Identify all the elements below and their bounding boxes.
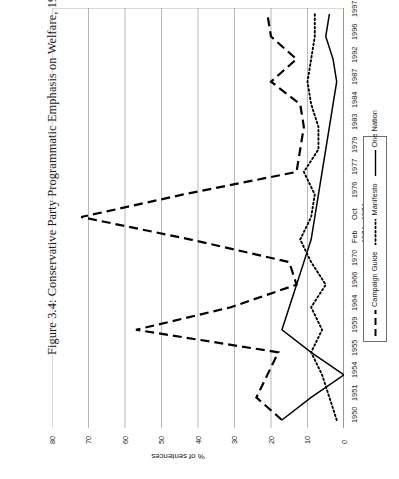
series-lines [81, 14, 344, 420]
category-tick-label: 1983 [351, 114, 358, 130]
value-tick-label: 30 [231, 436, 238, 444]
gridlines [52, 8, 344, 428]
legend-label: Campaign Guide [371, 252, 378, 307]
series-line-campaign-guide [81, 14, 304, 420]
category-tick-label: 1976 [351, 181, 358, 197]
chart-canvas [52, 8, 344, 428]
category-tick-label: 1970 [351, 249, 358, 265]
category-tick-label: 1959 [351, 317, 358, 333]
legend-swatch-dotted [372, 219, 379, 245]
value-tick-label: 60 [122, 436, 129, 444]
legend-label: Manifesto [371, 183, 378, 215]
legend-entry: Campaign Guide [371, 252, 378, 336]
legend-entries: Campaign GuideManifestoOne Nation [364, 137, 386, 341]
category-tick-label: 1984 [351, 91, 358, 107]
category-tick-label: Feb [351, 230, 358, 243]
category-tick-label: 1955 [351, 339, 358, 355]
category-tick-label: 1966 [351, 272, 358, 288]
category-tick-label: 1992 [351, 46, 358, 62]
category-tick-label: 1987 [351, 69, 358, 85]
category-tick-label: 1996 [351, 24, 358, 40]
category-tick-label: 1964 [351, 294, 358, 310]
category-tick-label: Oct [351, 209, 358, 221]
figure-root: Figure 3.4: Conservative Party Programma… [0, 0, 399, 479]
legend-swatch-dashed [372, 310, 379, 336]
value-tick-label: 40 [195, 436, 202, 444]
legend-entry: Manifesto [371, 183, 378, 244]
legend-label: One Nation [371, 110, 378, 147]
category-tick-label: 1979 [351, 136, 358, 152]
value-axis-title: % of sentences [118, 452, 238, 461]
value-tick-label: 20 [268, 436, 275, 444]
legend-entry: One Nation [371, 110, 378, 176]
value-tick-label: 50 [158, 436, 165, 444]
legend-swatch-solid [372, 150, 379, 176]
category-tick-label: 1950 [351, 407, 358, 423]
category-tick-label: 1951 [351, 384, 358, 400]
series-line-manifesto [300, 14, 337, 420]
category-tick-label: 1954 [351, 362, 358, 378]
value-tick-label: 70 [85, 436, 92, 444]
value-tick-label: 0 [341, 440, 348, 444]
series-line-one-nation [282, 14, 344, 420]
legend-box: Campaign GuideManifestoOne Nation [363, 136, 387, 342]
category-tick-label: 1997 [351, 1, 358, 17]
value-tick-label: 80 [49, 436, 56, 444]
plot-area [52, 8, 344, 428]
category-tick-label: 1977 [351, 159, 358, 175]
value-tick-label: 10 [304, 436, 311, 444]
